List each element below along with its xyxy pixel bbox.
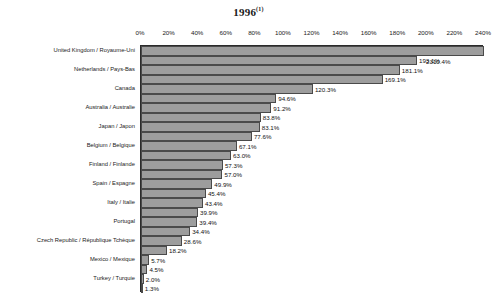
category-label: Spain / Espagne (92, 180, 135, 186)
bar-value-label: 57.3% (223, 161, 243, 168)
chart-title: 1996(1) (0, 6, 497, 18)
bar (141, 132, 252, 142)
bar-value-label: 91.2% (271, 104, 291, 111)
bar (141, 84, 313, 94)
bar (141, 236, 182, 246)
x-tick-label: 100% (275, 29, 291, 36)
bar-row: 5.7% (141, 255, 483, 265)
bar-value-label: 193.1% (417, 57, 440, 64)
bar (141, 160, 223, 170)
bar-row: 43.4% (141, 198, 483, 208)
bar-row: 34.4% (141, 227, 483, 237)
x-tick-label: 20% (162, 29, 174, 36)
bar-row: 49.9% (141, 179, 483, 189)
chart-title-footnote-marker: (1) (256, 6, 264, 12)
category-label: Canada (115, 85, 135, 91)
bar-value-label: 120.3% (313, 85, 336, 92)
bar-value-label: 49.9% (212, 180, 232, 187)
bar (141, 227, 190, 237)
bar-row: 57.3% (141, 160, 483, 170)
bar (141, 141, 237, 151)
bar-row: 181.1% (141, 65, 483, 75)
bar-row: 91.2% (141, 103, 483, 113)
bar (141, 198, 203, 208)
category-label: Netherlands / Pays-Bas (74, 66, 135, 72)
bar (141, 46, 484, 56)
bar-value-label: 34.4% (190, 228, 210, 235)
y-axis-category-labels: United Kingdom / Royaume-UniNetherlands … (0, 45, 138, 292)
category-label: Italy / Italie (107, 199, 135, 205)
bar (141, 56, 417, 66)
bar (141, 189, 206, 199)
bar-row: 120.3% (141, 84, 483, 94)
category-label: Czech Republic / République Tchèque (37, 237, 135, 243)
bar (141, 208, 198, 218)
bar-value-label: 18.2% (167, 247, 187, 254)
bar-value-label: 2.0% (144, 275, 160, 282)
bar-row: 67.1% (141, 141, 483, 151)
x-tick-label: 240% (475, 29, 491, 36)
x-tick-label: 140% (332, 29, 348, 36)
bar-row: 2.0% (141, 274, 483, 284)
bar-chart: 1996(1) 0%20%40%60%80%100%120%140%160%18… (0, 0, 497, 301)
bar-row: 18.2% (141, 246, 483, 256)
bar (141, 94, 276, 104)
chart-title-text: 1996 (233, 6, 256, 18)
x-tick-label: 220% (446, 29, 462, 36)
category-label: Portugal (113, 218, 135, 224)
x-tick-label: 200% (418, 29, 434, 36)
category-label: United Kingdom / Royaume-Uni (53, 47, 135, 53)
bar-value-label: 1.3% (143, 285, 159, 292)
bar-row: 94.6% (141, 94, 483, 104)
x-axis-tick-labels: 0%20%40%60%80%100%120%140%160%180%200%22… (0, 29, 497, 41)
bar-value-label: 63.0% (231, 152, 251, 159)
bar (141, 255, 149, 265)
bar-row: 83.1% (141, 122, 483, 132)
bar-row: 39.4% (141, 217, 483, 227)
bar (141, 170, 222, 180)
bar-row: 28.6% (141, 236, 483, 246)
bar-row: 57.0% (141, 170, 483, 180)
bar-row: 193.1% (141, 56, 483, 66)
bar-row: 1.3% (141, 284, 483, 294)
bar (141, 113, 261, 123)
bar-value-label: 169.1% (383, 76, 406, 83)
bar-row: 2310.4% (141, 46, 483, 56)
bar-value-label: 5.7% (149, 256, 165, 263)
bar-row: 45.4% (141, 189, 483, 199)
category-label: Mexico / Mexique (90, 256, 135, 262)
bar-row: 63.0% (141, 151, 483, 161)
bar-value-label: 83.1% (260, 123, 280, 130)
bar-value-label: 83.8% (261, 114, 281, 121)
bar-row: 77.6% (141, 132, 483, 142)
bar-row: 169.1% (141, 75, 483, 85)
bar (141, 122, 260, 132)
x-tick-label: 40% (191, 29, 203, 36)
category-label: Japan / Japon (99, 123, 135, 129)
x-tick-label: 80% (248, 29, 260, 36)
bar-row: 4.5% (141, 265, 483, 275)
bar-value-label: 181.1% (400, 66, 423, 73)
bar-value-label: 39.9% (198, 209, 218, 216)
category-label: Finland / Finlande (89, 161, 135, 167)
bar-row: 39.9% (141, 208, 483, 218)
bar-value-label: 43.4% (203, 199, 223, 206)
bar (141, 65, 400, 75)
bar-value-label: 67.1% (237, 142, 257, 149)
bar-value-label: 4.5% (147, 266, 163, 273)
category-label: Belgium / Belgique (87, 142, 135, 148)
bar (141, 179, 212, 189)
x-tick-label: 160% (361, 29, 377, 36)
x-tick-label: 60% (220, 29, 232, 36)
bar (141, 151, 231, 161)
bar-row: 83.8% (141, 113, 483, 123)
bar (141, 103, 271, 113)
bar-value-label: 45.4% (206, 190, 226, 197)
category-label: Turkey / Turquie (93, 275, 135, 281)
category-label: Australia / Australie (85, 104, 135, 110)
bar (141, 217, 197, 227)
x-tick-label: 180% (389, 29, 405, 36)
bar-value-label: 94.6% (276, 95, 296, 102)
bar-value-label: 77.6% (252, 133, 272, 140)
plot-area: 2310.4%193.1%181.1%169.1%120.3%94.6%91.2… (140, 45, 483, 292)
